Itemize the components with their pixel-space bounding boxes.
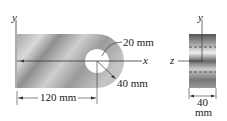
thickness-unit: mm [195, 107, 212, 118]
side-z-axis-label: z [170, 55, 174, 66]
front-x-axis-label: x [143, 55, 148, 66]
hole-radius-label: 20 mm [123, 37, 154, 48]
length-label: 120 mm [40, 92, 76, 103]
diagram-canvas [0, 0, 227, 121]
side-y-axis-label: y [198, 12, 203, 23]
outer-radius-label: 40 mm [117, 78, 148, 89]
front-y-axis-label: y [12, 12, 17, 23]
